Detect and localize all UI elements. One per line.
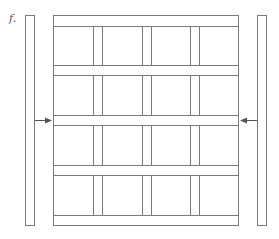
right-arrow-icon — [240, 118, 257, 124]
outer-frame — [54, 16, 239, 226]
vertical-dividers — [94, 27, 200, 216]
left-arrow-icon — [35, 118, 52, 124]
left-side-bar — [26, 16, 35, 226]
grid-frame-diagram — [0, 0, 279, 239]
horizontal-bands — [54, 27, 239, 216]
right-side-bar — [258, 16, 267, 226]
